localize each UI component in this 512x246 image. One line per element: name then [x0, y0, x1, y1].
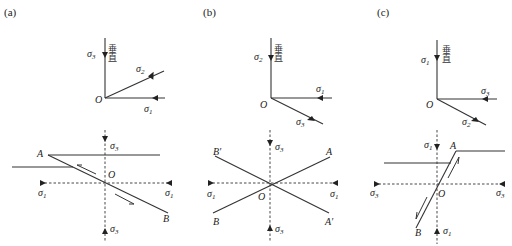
origin-label: O [260, 99, 267, 110]
arrow-left-icon [166, 180, 172, 186]
arrow-down-icon [434, 55, 440, 61]
origin-label: O [438, 188, 445, 199]
point-a-prime-label: A′ [324, 216, 334, 227]
vertical-axis-label: σ3 [87, 48, 96, 61]
panel-a: (a) σ3 垂直 σ2 σ1 O σ3 [4, 6, 173, 242]
arrow-up-icon [102, 228, 108, 234]
slip-arrow-up-icon [77, 165, 96, 174]
origin-label: O [95, 94, 102, 105]
point-b-prime-label: B′ [213, 146, 222, 157]
bottom-stress-label: σ3 [110, 223, 119, 236]
horizontal-axis-label: σ1 [144, 103, 152, 116]
vertical-axis-label: σ2 [254, 51, 263, 64]
slip-arrow-up-icon [448, 157, 459, 178]
right-stress-label: σ3 [496, 187, 505, 200]
origin-label: O [258, 191, 265, 202]
horizontal-axis-label: σ3 [481, 85, 490, 98]
arrow-down-icon [267, 140, 273, 146]
point-a-label: A [36, 148, 44, 159]
origin-label: O [108, 169, 115, 180]
arrow-left-icon [152, 95, 158, 101]
arrow-down-icon [434, 144, 440, 150]
horizontal-axis-label: σ1 [316, 83, 324, 96]
panel-label-a: (a) [4, 6, 17, 19]
arrow-down-icon [102, 136, 108, 142]
top-stress-label: σ3 [275, 141, 284, 154]
cross-section-a [12, 130, 172, 242]
arrow-oblique-icon [148, 72, 155, 80]
vertical-label: 垂直 [107, 43, 117, 62]
panel-label-b: (b) [203, 6, 216, 19]
arrow-right-icon [208, 180, 214, 186]
arrow-right-icon [40, 180, 46, 186]
right-stress-label: σ1 [165, 187, 173, 200]
oblique-axis-label: σ2 [136, 63, 145, 76]
arrow-up-icon [267, 225, 273, 231]
origin-label: O [426, 99, 433, 110]
left-stress-label: σ1 [207, 188, 215, 201]
vertical-axis-label: σ1 [421, 54, 429, 67]
point-a-label: A [449, 140, 457, 151]
point-b-label: B [213, 216, 219, 227]
arrow-up-icon [434, 228, 440, 234]
point-b-label: B [163, 213, 169, 224]
bottom-stress-label: σ1 [443, 225, 451, 238]
cross-section-c [374, 130, 505, 244]
right-stress-label: σ1 [330, 188, 338, 201]
left-stress-label: σ1 [38, 187, 46, 200]
panel-c: (c) σ1 垂直 σ3 σ2 O σ1 σ1 σ3 [370, 6, 505, 244]
slip-arrow-down-icon [416, 197, 427, 219]
point-b-label: B [415, 227, 421, 238]
fault-stress-diagram: (a) σ3 垂直 σ2 σ1 O σ3 [0, 0, 512, 246]
oblique-axis-label: σ3 [296, 116, 305, 129]
oblique-axis-label: σ2 [462, 116, 471, 129]
top-stress-label: σ1 [424, 139, 432, 152]
bottom-stress-label: σ3 [275, 223, 284, 236]
arrow-left-icon [332, 180, 338, 186]
vertical-label: 垂直 [441, 44, 451, 63]
left-stress-label: σ3 [370, 187, 379, 200]
vertical-label: 垂直 [273, 43, 283, 62]
fault-line [48, 155, 168, 213]
panel-b: (b) σ2 垂直 σ1 σ3 O σ3 σ3 σ1 σ1 O A [203, 6, 338, 242]
oblique-axis-line [105, 71, 164, 98]
point-a-label: A [325, 146, 333, 157]
cross-section-b [208, 130, 338, 242]
panel-label-c: (c) [377, 6, 390, 19]
top-stress-label: σ3 [110, 140, 119, 153]
